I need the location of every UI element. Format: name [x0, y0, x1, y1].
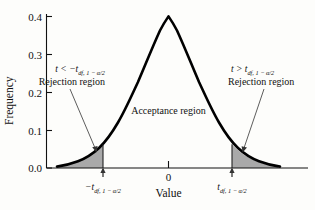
y-tick-label-0.2: 0.2: [28, 87, 42, 99]
right-rejection-region-label: Rejection region: [228, 76, 294, 87]
right-condition-prefix: t > t: [231, 64, 248, 74]
y-tick-label-0.0: 0.0: [28, 162, 42, 174]
left-condition-subscript: df, 1 − α/2: [78, 69, 106, 76]
x-tick-label-left-critical: −tdf, 1 − α/2: [85, 182, 122, 194]
x-tick-label-right-critical: tdf, 1 − α/2: [217, 182, 247, 194]
left-rejection-region-label: Rejection region: [39, 76, 105, 87]
left-critical-prefix: −t: [85, 182, 94, 192]
left-condition-text: t < −tdf, 1 − α/2: [55, 64, 106, 76]
y-tick-label-0.1: 0.1: [28, 125, 42, 137]
x-tick-label-center: 0: [166, 171, 172, 183]
y-axis-title: Frequency: [3, 76, 16, 125]
y-tick-label-0.4: 0.4: [28, 11, 42, 23]
right-critical-subscript: df, 1 − α/2: [220, 187, 248, 194]
acceptance-region-label: Acceptance region: [131, 105, 206, 116]
normal-density-curve: [57, 16, 280, 166]
left-condition-prefix: t < −t: [55, 64, 78, 74]
right-condition-text: t > tdf, 1 − α/2: [231, 64, 275, 76]
right-condition-subscript: df, 1 − α/2: [247, 69, 275, 76]
chart-canvas: 0.4 0.3 0.2 0.1 0.0 Frequency 0 Value −t…: [0, 0, 315, 210]
y-tick-label-0.3: 0.3: [28, 49, 42, 61]
left-annotation-leader: [70, 89, 95, 148]
left-critical-subscript: df, 1 − α/2: [94, 187, 122, 194]
x-axis-title: Value: [155, 187, 181, 199]
right-annotation-leader: [244, 89, 264, 148]
distribution-figure: 0.4 0.3 0.2 0.1 0.0 Frequency 0 Value −t…: [0, 0, 315, 210]
